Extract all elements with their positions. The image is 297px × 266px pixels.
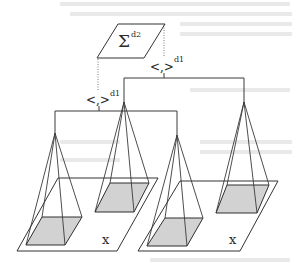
inner-product-label-right: <,> d1 [150,55,184,74]
inner-product-superscript: d1 [174,55,184,64]
sigma-superscript: d2 [131,30,141,39]
diagram-canvas: Σ d2 <,> d1 <,> d1 x x [0,0,297,266]
pyramid-4 [216,102,269,213]
right-plane-label: x [229,232,237,247]
sigma-node: Σ d2 [97,24,165,58]
inner-product-label-left: <,> d1 [86,89,120,107]
left-plane-label: x [102,232,110,247]
pyramid-2 [95,102,149,212]
upper-bracket [124,73,244,102]
inner-product-superscript: d1 [110,89,120,98]
inner-product-symbol: <,> [86,93,110,107]
inner-product-symbol: <,> [150,60,174,74]
sigma-symbol: Σ [118,31,130,51]
